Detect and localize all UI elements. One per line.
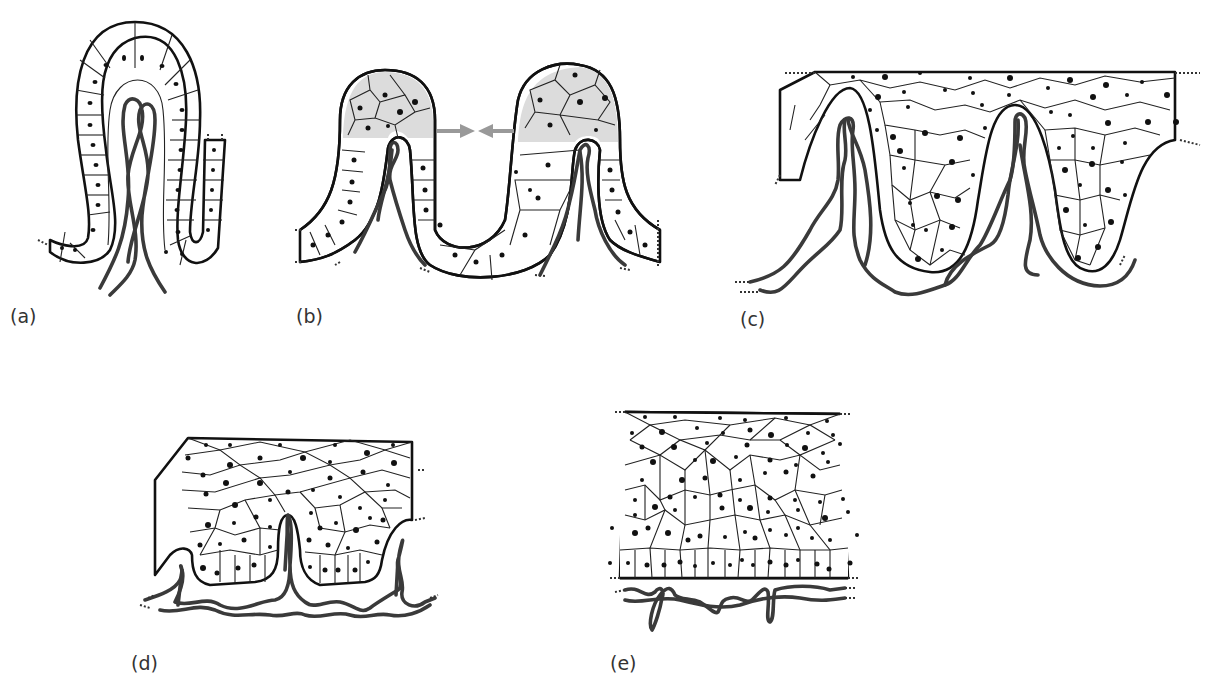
panel-c-drawing	[720, 60, 1220, 360]
panel-d: (d)	[120, 420, 460, 700]
converging-arrows	[437, 124, 514, 138]
panel-d-drawing	[120, 420, 460, 700]
panel-b-drawing	[280, 40, 680, 340]
panel-c: (c)	[720, 60, 1220, 360]
panel-c-label: (c)	[740, 308, 765, 330]
panel-e-label: (e)	[610, 652, 637, 674]
panel-a: (a)	[0, 0, 260, 340]
panel-a-label: (a)	[10, 305, 36, 327]
panel-a-drawing	[0, 0, 260, 340]
capillary-plexus	[625, 586, 845, 630]
arrow-left-head-icon	[478, 124, 493, 138]
panel-b: (b)	[280, 40, 680, 340]
panel-e: (e)	[590, 400, 870, 700]
arrow-right-head-icon	[460, 124, 475, 138]
panel-b-label: (b)	[296, 305, 323, 327]
panel-d-label: (d)	[131, 652, 158, 674]
